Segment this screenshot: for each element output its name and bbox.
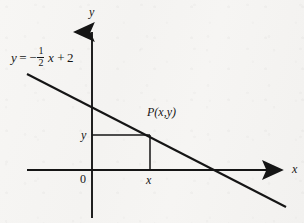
- x-axis-label: x: [292, 163, 297, 175]
- equation-constant: 2: [67, 51, 74, 64]
- equation-equals: =: [19, 51, 26, 64]
- y-axis-label: y: [89, 6, 94, 18]
- equation-lhs: y: [11, 51, 17, 64]
- equation-minus-sign: −: [29, 51, 36, 64]
- origin-label: 0: [80, 173, 86, 185]
- equation-label: y = − 1 2 x + 2: [11, 46, 74, 68]
- fraction-denominator: 2: [37, 58, 44, 68]
- function-line: [27, 74, 286, 207]
- figure-canvas: y = − 1 2 x + 2 y x 0 x y P(x,y): [0, 0, 304, 223]
- fraction-numerator: 1: [37, 46, 44, 56]
- equation-variable: x: [48, 51, 54, 64]
- x-tick-label: x: [146, 174, 151, 186]
- equation-fraction: 1 2: [37, 46, 44, 68]
- point-label-p: P(x,y): [147, 106, 176, 118]
- y-tick-label: y: [81, 129, 86, 141]
- equation-plus-sign: +: [57, 51, 64, 64]
